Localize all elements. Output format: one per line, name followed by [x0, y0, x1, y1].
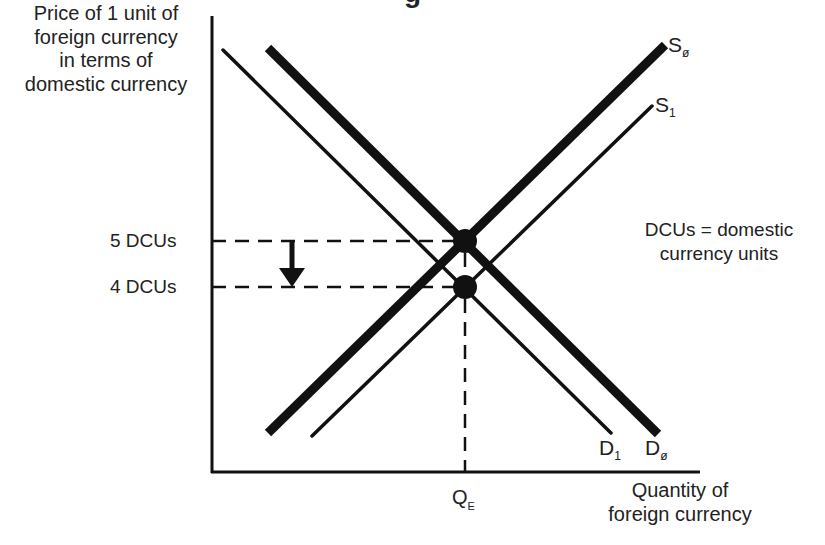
y-axis-label-line: in terms of [0, 49, 212, 73]
tick-label-4dcus: 4 DCUs [110, 276, 177, 298]
equilibrium-dot-new [453, 275, 477, 299]
x-axis-label-line: Quantity of [590, 478, 770, 502]
x-axis-label: Quantity of foreign currency [590, 478, 770, 526]
y-axis-label-line: Price of 1 unit of [0, 2, 212, 26]
y-axis-label-line: foreign currency [0, 26, 212, 50]
label-d0: Dø [645, 437, 668, 467]
label-d1-sub: 1 [614, 449, 621, 463]
qe-sub: E [468, 500, 475, 512]
label-d1: D1 [599, 437, 621, 467]
qe-main: Q [452, 486, 468, 508]
label-d0-sub: ø [660, 449, 667, 463]
tick-label-5dcus: 5 DCUs [110, 230, 177, 252]
equilibrium-dot-initial [453, 229, 477, 253]
label-s1: S1 [655, 94, 676, 124]
note-line: currency units [614, 242, 824, 266]
label-s0: Sø [668, 34, 689, 64]
tick-label-qe: QE [452, 486, 475, 517]
y-axis-label: Price of 1 unit of foreign currency in t… [0, 2, 212, 96]
down-arrow-icon [279, 268, 305, 287]
label-s0-main: S [668, 33, 682, 56]
x-axis-label-line: foreign currency [590, 502, 770, 526]
label-s1-main: S [655, 93, 669, 116]
dcu-note: DCUs = domestic currency units [614, 218, 824, 266]
label-d1-main: D [599, 436, 614, 459]
curve-s1 [312, 106, 652, 436]
label-s0-sub: ø [682, 46, 689, 60]
note-line: DCUs = domestic [614, 218, 824, 242]
y-axis-label-line: domestic currency [0, 73, 212, 97]
label-d0-main: D [645, 436, 660, 459]
label-s1-sub: 1 [669, 106, 676, 120]
